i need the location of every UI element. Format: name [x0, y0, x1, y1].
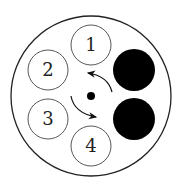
center-dot	[87, 92, 95, 100]
circle-label: 2	[42, 59, 53, 80]
numbered-circle-4: 4	[71, 126, 111, 166]
numbered-circle-3: 3	[28, 99, 68, 139]
rotation-arrow-upper-icon	[88, 73, 112, 92]
circle-label: 1	[85, 34, 96, 55]
circle-label: 4	[85, 135, 96, 156]
filled-circle-lower	[113, 98, 155, 140]
numbered-circle-1: 1	[71, 25, 111, 65]
filled-circle-upper	[113, 49, 155, 91]
circle-label: 3	[42, 108, 53, 129]
numbered-circle-2: 2	[28, 50, 68, 90]
diagram: 1 2 3 4	[0, 0, 180, 186]
